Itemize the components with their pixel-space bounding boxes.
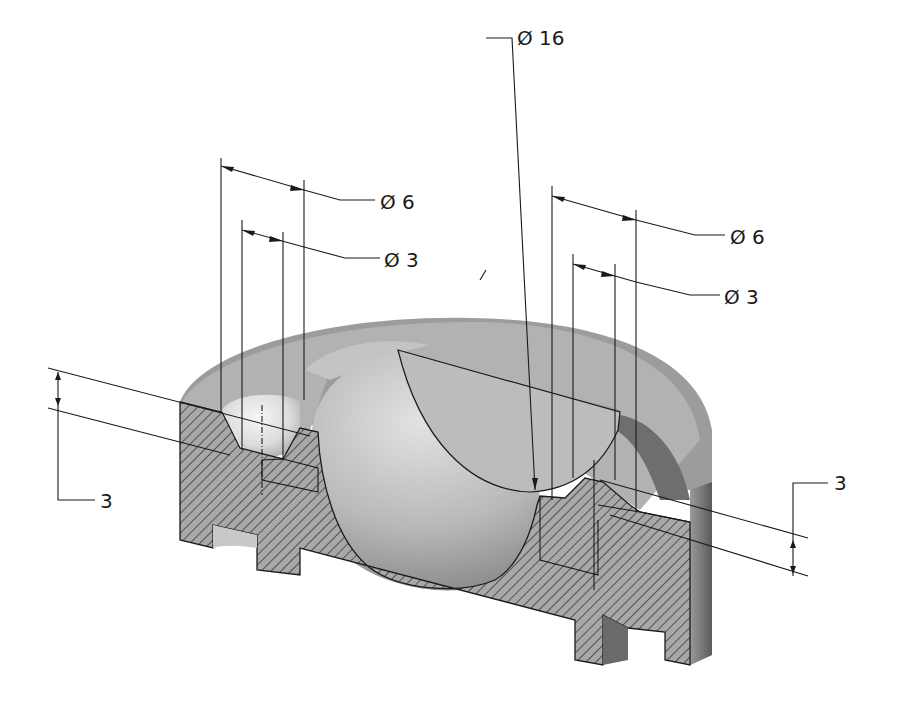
right-side-face — [690, 482, 712, 665]
dim-left-outer-hole-label: Ø 6 — [380, 190, 415, 214]
dim-right-depth-label: 3 — [834, 471, 847, 495]
technical-drawing: Ø 16 Ø 6 Ø 3 Ø 6 Ø 3 3 3 — [0, 0, 898, 718]
dim-center-bore-label: Ø 16 — [517, 26, 565, 50]
dim-right-inner-hole-label: Ø 3 — [724, 285, 759, 309]
dim-left-depth-label: 3 — [100, 489, 113, 513]
dim-left-inner-hole-label: Ø 3 — [384, 248, 419, 272]
dim-right-outer-hole-label: Ø 6 — [730, 225, 765, 249]
